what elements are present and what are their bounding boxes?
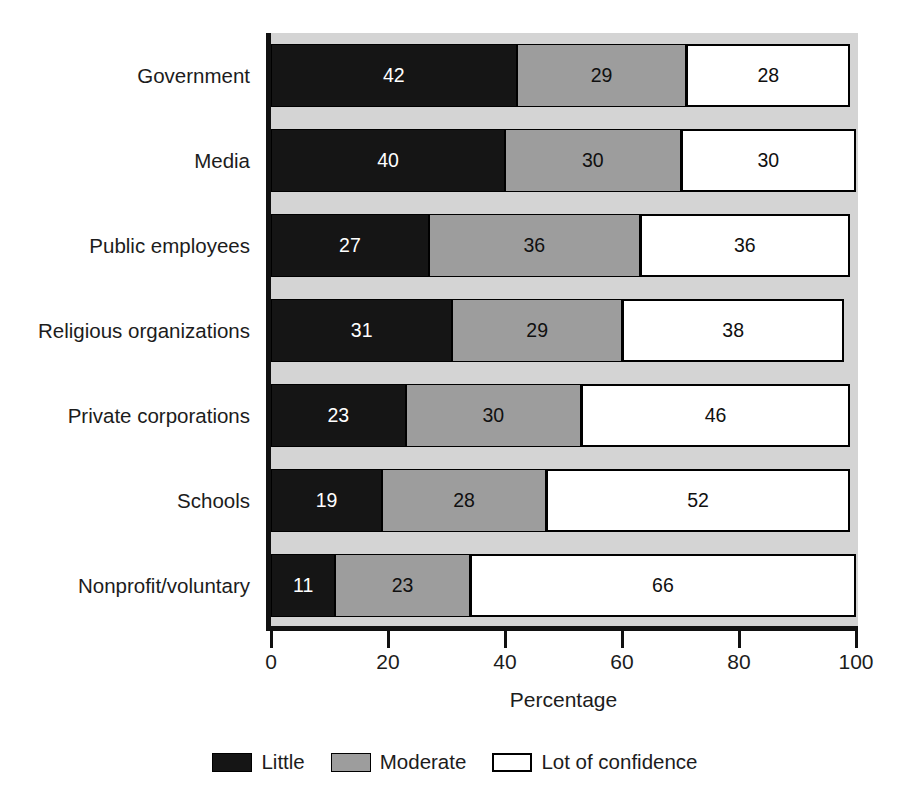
legend-item[interactable]: Moderate [331,750,467,774]
category-label: Schools [0,490,250,512]
bar-segment-value: 29 [591,64,613,87]
tick-label: 80 [704,650,774,674]
bar-segment-moderate: 29 [517,44,687,107]
bar-row: 112366 [271,554,856,617]
bar-segment-value: 36 [734,234,756,257]
legend-label: Lot of confidence [541,750,697,774]
bar-segment-value: 28 [453,489,475,512]
bar-segment-moderate: 23 [335,554,470,617]
bar-segment-value: 36 [523,234,545,257]
bar-segment-little: 27 [271,214,429,277]
category-axis-labels: GovernmentMediaPublic employeesReligious… [0,33,258,628]
tick-label: 60 [587,650,657,674]
bar-segment-value: 27 [339,234,361,257]
bar-segment-value: 29 [526,319,548,342]
bar-segment-value: 11 [293,574,313,597]
tick-label: 100 [821,650,891,674]
bar-segment-moderate: 28 [382,469,546,532]
legend-item[interactable]: Little [212,750,304,774]
bar-segment-value: 38 [722,319,744,342]
bar-segment-value: 30 [582,149,604,172]
bar-segment-little: 40 [271,129,505,192]
bar-segment-lot: 30 [681,129,857,192]
tick-mark [621,631,624,648]
bar-segment-moderate: 30 [406,384,582,447]
tick-mark [387,631,390,648]
bar-row: 422928 [271,44,856,107]
bar-segment-little: 19 [271,469,382,532]
bar-segment-value: 40 [377,149,399,172]
bar-segment-moderate: 30 [505,129,681,192]
bar-row: 233046 [271,384,856,447]
category-label: Media [0,150,250,172]
category-label: Nonprofit/voluntary [0,575,250,597]
bar-segment-lot: 52 [546,469,850,532]
bar-segment-value: 19 [316,489,338,512]
bar-segment-value: 23 [392,574,414,597]
bar-segment-lot: 28 [686,44,850,107]
legend-swatch-lot [492,753,532,772]
bar-segment-moderate: 29 [452,299,622,362]
legend-label: Little [261,750,304,774]
bar-segment-value: 46 [705,404,727,427]
bar-row: 273636 [271,214,856,277]
bar-segment-value: 30 [757,149,779,172]
bar-segment-value: 30 [482,404,504,427]
legend-item[interactable]: Lot of confidence [492,750,697,774]
bar-segment-value: 28 [757,64,779,87]
bar-segment-value: 42 [383,64,405,87]
tick-mark [504,631,507,648]
bar-segment-lot: 66 [470,554,856,617]
legend-swatch-moderate [331,753,371,772]
bar-segment-lot: 36 [640,214,851,277]
bar-segment-lot: 46 [581,384,850,447]
category-label: Private corporations [0,405,250,427]
bar-segment-value: 52 [687,489,709,512]
category-label: Government [0,65,250,87]
bar-row: 192852 [271,469,856,532]
bar-segment-moderate: 36 [429,214,640,277]
tick-label: 20 [353,650,423,674]
tick-mark [855,631,858,648]
stacked-bar-chart: GovernmentMediaPublic employeesReligious… [0,0,922,810]
category-label: Religious organizations [0,320,250,342]
tick-mark [738,631,741,648]
category-label: Public employees [0,235,250,257]
bar-segment-value: 31 [351,319,373,342]
bar-segment-value: 23 [327,404,349,427]
bar-row: 312938 [271,299,856,362]
tick-label: 40 [470,650,540,674]
chart-legend: LittleModerateLot of confidence [0,750,922,774]
bar-segment-value: 66 [652,574,674,597]
bar-series-container: 4229284030302736363129382330461928521123… [271,33,856,628]
bar-segment-little: 23 [271,384,406,447]
bar-segment-little: 11 [271,554,335,617]
legend-label: Moderate [380,750,467,774]
bar-row: 403030 [271,129,856,192]
bar-segment-little: 42 [271,44,517,107]
tick-mark [270,631,273,648]
x-axis-title: Percentage [271,688,856,712]
tick-label: 0 [236,650,306,674]
bar-segment-lot: 38 [622,299,844,362]
bar-segment-little: 31 [271,299,452,362]
legend-swatch-little [212,753,252,772]
x-axis-ticks: 020406080100 [0,631,922,681]
